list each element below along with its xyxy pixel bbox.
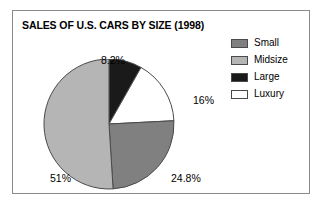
legend-swatch-midsize [231,56,248,65]
pie-slice-midsize [44,59,113,189]
legend-label-large: Large [254,72,280,82]
chart-figure: SALES OF U.S. CARS BY SIZE (1998) Small … [12,10,310,194]
legend-item-midsize: Midsize [231,52,305,68]
pie-label-midsize: 51% [50,173,71,184]
pie-slice-group [44,59,174,189]
legend-label-luxury: Luxury [254,89,284,99]
chart-title: SALES OF U.S. CARS BY SIZE (1998) [22,19,204,31]
pie-label-large: 8.2% [101,55,125,66]
legend-item-luxury: Luxury [231,86,305,102]
pie-slice-small [109,121,174,189]
pie-label-small: 24.8% [171,173,201,184]
legend-label-midsize: Midsize [254,55,288,65]
legend-item-small: Small [231,35,305,51]
chart-legend: Small Midsize Large Luxury [231,35,305,103]
legend-swatch-luxury [231,90,248,99]
pie-label-luxury: 16% [193,95,214,106]
legend-label-small: Small [254,38,279,48]
legend-swatch-large [231,73,248,82]
legend-item-large: Large [231,69,305,85]
legend-swatch-small [231,39,248,48]
